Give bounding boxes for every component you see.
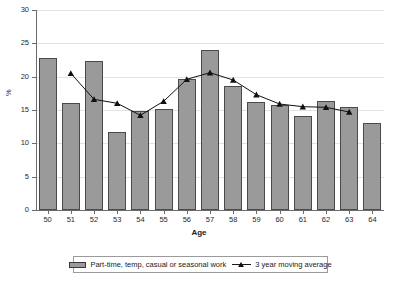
x-tick-label-51: 51 bbox=[60, 216, 82, 224]
x-tick-53 bbox=[117, 210, 118, 214]
y-tick-5 bbox=[32, 177, 36, 178]
x-tick-label-63: 63 bbox=[338, 216, 360, 224]
x-tick-label-53: 53 bbox=[106, 216, 128, 224]
x-tick-label-55: 55 bbox=[153, 216, 175, 224]
bar-swatch-icon bbox=[69, 262, 86, 268]
x-tick-63 bbox=[349, 210, 350, 214]
moving-average-marker-6 bbox=[207, 69, 213, 75]
legend-item-line: 3 year moving average bbox=[232, 261, 331, 269]
x-tick-label-58: 58 bbox=[222, 216, 244, 224]
y-tick-label-0: 0 bbox=[8, 206, 29, 214]
x-tick-label-56: 56 bbox=[176, 216, 198, 224]
x-tick-label-59: 59 bbox=[245, 216, 267, 224]
moving-average-marker-3 bbox=[137, 112, 143, 118]
x-tick-64 bbox=[372, 210, 373, 214]
y-tick-label-30: 30 bbox=[8, 6, 29, 14]
x-tick-label-62: 62 bbox=[315, 216, 337, 224]
x-tick-label-64: 64 bbox=[361, 216, 383, 224]
moving-average-marker-0 bbox=[68, 70, 74, 76]
y-tick-25 bbox=[32, 43, 36, 44]
y-tick-label-10: 10 bbox=[8, 139, 29, 147]
x-tick-52 bbox=[94, 210, 95, 214]
x-tick-57 bbox=[210, 210, 211, 214]
moving-average-line bbox=[36, 10, 384, 210]
moving-average-marker-8 bbox=[253, 91, 259, 97]
x-tick-58 bbox=[233, 210, 234, 214]
y-tick-20 bbox=[32, 77, 36, 78]
x-axis-title: Age bbox=[0, 228, 398, 237]
plot-area bbox=[36, 10, 384, 210]
legend-label-bars: Part-time, temp, casual or seasonal work bbox=[90, 261, 226, 269]
y-tick-30 bbox=[32, 10, 36, 11]
figure-chart: 051015202530 505152535455565758596061626… bbox=[0, 0, 398, 290]
x-tick-51 bbox=[71, 210, 72, 214]
x-tick-62 bbox=[326, 210, 327, 214]
x-tick-50 bbox=[48, 210, 49, 214]
moving-average-polyline bbox=[71, 73, 349, 116]
y-tick-label-5: 5 bbox=[8, 173, 29, 181]
chart-legend: Part-time, temp, casual or seasonal work… bbox=[73, 256, 328, 273]
y-tick-label-25: 25 bbox=[8, 39, 29, 47]
x-tick-label-61: 61 bbox=[292, 216, 314, 224]
x-tick-label-52: 52 bbox=[83, 216, 105, 224]
x-tick-label-50: 50 bbox=[37, 216, 59, 224]
x-tick-label-57: 57 bbox=[199, 216, 221, 224]
y-tick-10 bbox=[32, 143, 36, 144]
y-axis-title: % bbox=[4, 89, 13, 96]
y-axis bbox=[36, 10, 37, 210]
x-tick-54 bbox=[140, 210, 141, 214]
x-tick-59 bbox=[256, 210, 257, 214]
y-tick-label-20: 20 bbox=[8, 73, 29, 81]
x-tick-56 bbox=[187, 210, 188, 214]
line-marker-swatch-icon bbox=[232, 261, 251, 268]
legend-label-line: 3 year moving average bbox=[255, 261, 331, 269]
x-tick-label-60: 60 bbox=[269, 216, 291, 224]
legend-item-bars: Part-time, temp, casual or seasonal work bbox=[69, 261, 226, 269]
x-tick-60 bbox=[280, 210, 281, 214]
x-tick-61 bbox=[303, 210, 304, 214]
y-tick-label-15: 15 bbox=[8, 106, 29, 114]
y-tick-15 bbox=[32, 110, 36, 111]
x-tick-label-54: 54 bbox=[129, 216, 151, 224]
y-tick-0 bbox=[32, 210, 36, 211]
x-tick-55 bbox=[164, 210, 165, 214]
